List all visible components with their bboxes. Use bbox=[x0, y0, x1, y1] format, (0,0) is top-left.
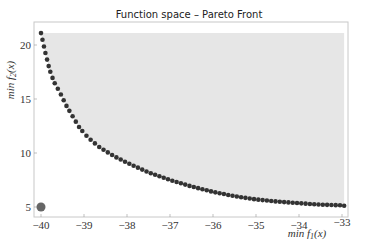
x-tick-label: −38 bbox=[118, 219, 136, 231]
pareto-point bbox=[187, 184, 192, 189]
pareto-point bbox=[282, 200, 287, 205]
pareto-point bbox=[252, 197, 257, 202]
pareto-point bbox=[321, 202, 326, 207]
pareto-point bbox=[204, 188, 209, 193]
pareto-point bbox=[329, 203, 334, 208]
pareto-point bbox=[77, 125, 82, 130]
pareto-point bbox=[170, 178, 175, 183]
x-tick-label: −33 bbox=[333, 216, 351, 228]
pareto-point bbox=[52, 81, 57, 86]
y-tick-label: 15 bbox=[20, 93, 32, 105]
pareto-point bbox=[50, 76, 55, 81]
pareto-point bbox=[333, 203, 338, 208]
pareto-point bbox=[217, 191, 222, 196]
pareto-point bbox=[256, 197, 261, 202]
ideal-point-marker bbox=[37, 203, 46, 212]
pareto-point bbox=[123, 159, 128, 164]
pareto-point bbox=[243, 196, 248, 201]
pareto-point bbox=[200, 187, 205, 192]
pareto-point bbox=[46, 64, 51, 69]
pareto-point bbox=[39, 31, 44, 36]
pareto-point bbox=[153, 172, 158, 177]
y-tick-label: 10 bbox=[20, 147, 32, 159]
pareto-point bbox=[316, 202, 321, 207]
pareto-point bbox=[118, 157, 123, 162]
pareto-point bbox=[61, 98, 66, 103]
pareto-point bbox=[40, 37, 45, 42]
pareto-point bbox=[269, 199, 274, 204]
pareto-point bbox=[196, 186, 201, 191]
x-tick-label: −40 bbox=[32, 219, 50, 231]
pareto-point bbox=[278, 199, 283, 204]
pareto-point bbox=[295, 201, 300, 206]
pareto-point bbox=[183, 182, 188, 187]
pareto-point bbox=[303, 201, 308, 206]
pareto-point bbox=[235, 194, 240, 199]
x-tick-label: −36 bbox=[204, 219, 222, 231]
y-tick-label: 5 bbox=[26, 201, 32, 213]
pareto-point bbox=[80, 129, 85, 134]
pareto-point bbox=[192, 185, 197, 190]
pareto-point bbox=[299, 201, 304, 206]
x-axis-label: min f1(x) bbox=[288, 227, 327, 241]
pareto-point bbox=[338, 203, 343, 208]
pareto-point bbox=[144, 169, 149, 174]
pareto-point bbox=[127, 161, 132, 166]
pareto-point bbox=[64, 104, 69, 109]
pareto-point bbox=[325, 203, 330, 208]
pareto-point bbox=[88, 138, 93, 143]
pareto-point bbox=[157, 174, 162, 179]
pareto-point bbox=[67, 109, 72, 114]
pareto-front-chart: Function space – Pareto Front −40−39−38−… bbox=[0, 0, 371, 250]
pareto-point bbox=[308, 202, 313, 207]
pareto-point bbox=[70, 114, 75, 119]
pareto-point bbox=[230, 194, 235, 199]
pareto-point bbox=[286, 200, 291, 205]
pareto-point bbox=[97, 145, 102, 150]
pareto-point bbox=[56, 86, 61, 91]
pareto-point bbox=[265, 198, 270, 203]
pareto-point bbox=[45, 57, 50, 62]
pareto-point bbox=[136, 165, 141, 170]
pareto-point bbox=[93, 141, 98, 146]
x-tick-label: −37 bbox=[161, 219, 179, 231]
pareto-point bbox=[114, 155, 119, 160]
pareto-point bbox=[174, 180, 179, 185]
pareto-point bbox=[131, 163, 136, 168]
ideal-point bbox=[37, 203, 46, 212]
pareto-point bbox=[273, 199, 278, 204]
pareto-point bbox=[59, 92, 64, 97]
pareto-point bbox=[290, 200, 295, 205]
x-tick-label: −39 bbox=[75, 219, 93, 231]
pareto-point bbox=[149, 171, 154, 176]
pareto-point bbox=[84, 133, 89, 138]
pareto-point bbox=[140, 167, 145, 172]
pareto-point bbox=[342, 203, 347, 208]
pareto-point bbox=[312, 202, 317, 207]
pareto-point bbox=[166, 177, 171, 182]
pareto-point bbox=[222, 192, 227, 197]
pareto-point bbox=[209, 189, 214, 194]
pareto-point bbox=[48, 69, 53, 74]
pareto-point bbox=[74, 119, 79, 124]
pareto-point bbox=[260, 198, 265, 203]
x-tick-label: −35 bbox=[247, 219, 265, 231]
pareto-point bbox=[226, 193, 231, 198]
y-tick-label: 20 bbox=[20, 39, 32, 51]
pareto-point bbox=[110, 153, 115, 158]
y-axis-label: min f2(x) bbox=[4, 60, 18, 99]
pareto-point bbox=[42, 44, 47, 49]
pareto-point bbox=[239, 195, 244, 200]
pareto-point bbox=[106, 150, 111, 155]
pareto-point bbox=[101, 147, 106, 152]
chart-title: Function space – Pareto Front bbox=[116, 9, 263, 20]
pareto-point bbox=[43, 51, 48, 56]
pareto-point bbox=[213, 190, 218, 195]
pareto-point bbox=[179, 181, 184, 186]
pareto-point bbox=[247, 196, 252, 201]
pareto-point bbox=[161, 175, 166, 180]
